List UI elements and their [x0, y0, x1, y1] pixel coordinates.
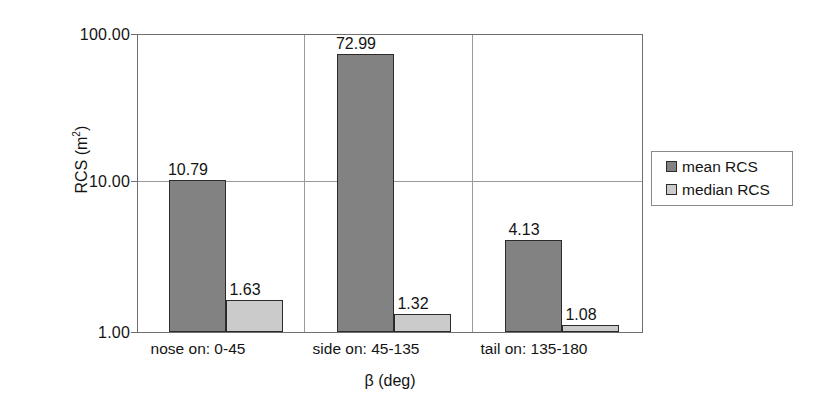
bar-median-side-on [394, 314, 451, 332]
legend-swatch-icon-mean [666, 161, 677, 172]
rcs-bar-chart: 100.00 10.00 1.00 RCS (m2) 10.79 1.63 72… [0, 0, 828, 410]
bar-value-mean-tail-on: 4.13 [474, 221, 574, 239]
legend-item-median-rcs: median RCS [666, 182, 770, 198]
legend-item-mean-rcs: mean RCS [666, 159, 758, 175]
legend-label-median: median RCS [682, 182, 770, 198]
bar-value-median-side-on: 1.32 [363, 295, 463, 313]
bar-median-tail-on [562, 325, 619, 332]
bar-mean-side-on [337, 54, 394, 332]
legend-swatch-icon-median [666, 184, 677, 195]
x-axis-title: β (deg) [137, 372, 643, 390]
x-tick-label-nose-on: nose on: 0-45 [118, 340, 278, 358]
x-tick-label-side-on: side on: 45-135 [286, 340, 446, 358]
legend: mean RCS median RCS [651, 151, 793, 206]
category-separator-2 [472, 35, 473, 332]
y-axis-title-base: RCS (m [73, 137, 90, 194]
bar-mean-nose-on [169, 180, 226, 332]
bar-value-median-nose-on: 1.63 [195, 281, 295, 299]
y-axis-title-superscript: 2 [71, 131, 82, 137]
bar-value-mean-nose-on: 10.79 [138, 161, 238, 179]
bar-median-nose-on [226, 300, 283, 332]
category-separator-1 [304, 35, 305, 332]
legend-label-mean: mean RCS [682, 159, 758, 175]
y-tick-label-10: 10.00 [89, 173, 130, 191]
bar-value-median-tail-on: 1.08 [531, 306, 631, 324]
x-tick-label-tail-on: tail on: 135-180 [454, 340, 614, 358]
y-tick-label-100: 100.00 [80, 26, 130, 44]
bar-value-mean-side-on: 72.99 [306, 35, 406, 53]
y-axis-title: RCS (m2) [71, 70, 90, 250]
y-axis-title-tail: ) [73, 126, 90, 131]
